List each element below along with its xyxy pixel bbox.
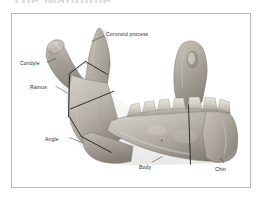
label-condyle: Condyle: [20, 60, 40, 66]
mandible-illustration: [12, 14, 250, 187]
label-chin: Chin: [215, 166, 226, 172]
label-ramus: Ramus: [30, 84, 47, 90]
figure-frame: Coronoid process Condyle Ramus Angle Bod…: [11, 13, 251, 188]
label-body: Body: [139, 164, 151, 170]
label-coronoid-process: Coronoid process: [106, 31, 148, 37]
label-angle: Angle: [45, 136, 59, 142]
page-title: The Mandible: [12, 0, 111, 3]
